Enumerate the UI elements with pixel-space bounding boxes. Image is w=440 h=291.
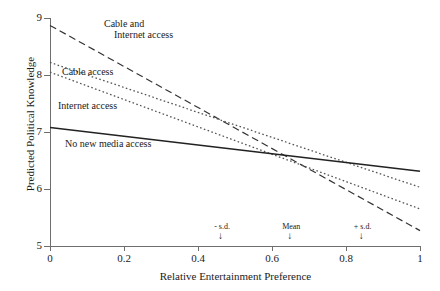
series-line-0 — [50, 25, 420, 230]
annotation-arrow-2: ↓ — [359, 232, 364, 240]
series-label-internet-access: Internet access — [58, 100, 117, 111]
y-axis-line — [50, 18, 51, 247]
y-tick-label-5: 5 — [28, 240, 42, 251]
x-tick-1 — [420, 246, 421, 251]
y-tick-7 — [44, 132, 50, 133]
y-tick-8 — [44, 75, 50, 76]
y-tick-label-9: 9 — [28, 12, 42, 23]
x-tick-label-1: 1 — [400, 252, 440, 264]
x-tick-0p6 — [272, 246, 273, 251]
series-label-no-new-media-access: No new media access — [65, 138, 151, 149]
x-tick-label-0p2: 0.2 — [104, 252, 144, 264]
series-label-cable-and-internet-line2: Internet access — [104, 29, 173, 40]
y-tick-9 — [44, 18, 50, 19]
x-axis-title: Relative Entertainment Preference — [50, 270, 421, 282]
x-tick-label-0p8: 0.8 — [326, 252, 366, 264]
series-label-cable-and-internet-line1: Cable and — [104, 18, 173, 29]
y-tick-6 — [44, 189, 50, 190]
chart-figure: 9 8 7 6 5 0 0.2 0.4 0.6 0.8 1 Predicted … — [0, 0, 440, 291]
x-tick-label-0p6: 0.6 — [252, 252, 292, 264]
x-tick-0p8 — [346, 246, 347, 251]
series-line-1 — [50, 62, 420, 187]
annotation-arrow-0: ↓ — [218, 232, 223, 240]
x-axis-line — [50, 246, 421, 247]
series-line-3 — [50, 127, 420, 171]
annotation-arrow-1: ↓ — [287, 232, 292, 240]
series-label-cable-access: Cable access — [62, 66, 113, 77]
x-tick-0p2 — [124, 246, 125, 251]
x-tick-0p4 — [198, 246, 199, 251]
x-tick-label-0p4: 0.4 — [178, 252, 218, 264]
x-tick-label-0: 0 — [30, 252, 70, 264]
series-label-cable-and-internet: Cable and Internet access — [104, 18, 173, 40]
x-tick-0 — [50, 246, 51, 251]
y-axis-title: Predicted Political Knowledge — [24, 34, 36, 214]
